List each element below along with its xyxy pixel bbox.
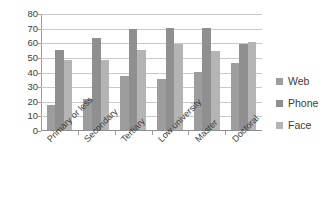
bar-phone: [166, 28, 175, 130]
legend-label: Phone: [288, 98, 318, 109]
bar-phone: [92, 38, 101, 130]
x-axis-tickmark: [225, 131, 226, 135]
bar-group: [194, 14, 220, 130]
y-axis-tickmark: [38, 131, 41, 132]
bar-phone: [239, 44, 248, 130]
y-axis-tickmark: [38, 87, 41, 88]
y-axis-tick-label: 30: [8, 82, 38, 92]
y-axis-tick-label: 80: [8, 9, 38, 19]
bar-phone: [202, 28, 211, 130]
legend-swatch-icon: [276, 100, 283, 107]
y-axis-tickmark: [38, 58, 41, 59]
y-axis-tick-label: 50: [8, 53, 38, 63]
y-axis-tickmark: [38, 43, 41, 44]
bar-web: [157, 79, 166, 130]
bar-web: [120, 76, 129, 130]
chart-legend: WebPhoneFace: [276, 70, 333, 136]
legend-item-face[interactable]: Face: [276, 114, 333, 136]
y-axis-tickmark: [38, 73, 41, 74]
y-axis-tickmark: [38, 29, 41, 30]
gridline: [41, 102, 262, 103]
gridline: [41, 73, 262, 74]
bar-group: [120, 14, 146, 130]
y-axis-tick-label: 60: [8, 38, 38, 48]
legend-label: Web: [288, 76, 309, 87]
legend-label: Face: [288, 120, 311, 131]
bar-chart: 01020304050607080 Primary or lessSeconda…: [0, 0, 333, 207]
legend-item-phone[interactable]: Phone: [276, 92, 333, 114]
legend-swatch-icon: [276, 122, 283, 129]
y-axis-tickmark: [38, 116, 41, 117]
y-axis-tick-label: 10: [8, 111, 38, 121]
y-axis-tick-label: 40: [8, 68, 38, 78]
y-axis-tickmark: [38, 14, 41, 15]
x-axis-tickmark: [78, 131, 79, 135]
x-axis-tickmark: [188, 131, 189, 135]
y-axis-tickmark: [38, 102, 41, 103]
y-axis-tick-label: 70: [8, 24, 38, 34]
y-axis-tick-label: 0: [8, 126, 38, 136]
bar-web: [231, 63, 240, 130]
gridline: [41, 14, 262, 15]
x-axis-tickmark: [152, 131, 153, 135]
legend-swatch-icon: [276, 78, 283, 85]
y-axis-tick-label: 20: [8, 97, 38, 107]
gridline: [41, 87, 262, 88]
legend-item-web[interactable]: Web: [276, 70, 333, 92]
gridline: [41, 43, 262, 44]
gridline: [41, 58, 262, 59]
gridline: [41, 29, 262, 30]
bar-phone: [129, 29, 138, 130]
x-axis-tickmark: [115, 131, 116, 135]
